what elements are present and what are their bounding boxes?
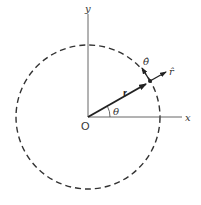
x-axis-label: x [185,112,191,123]
y-axis-label: y [84,3,91,14]
angle-arc [108,107,111,118]
r-hat-label: r̂ [169,66,175,77]
polar-coordinates-diagram: y x O r θ θ̂ r̂ [0,0,201,205]
r-hat-vector [150,72,166,81]
theta-hat-label: θ̂ [143,56,149,67]
origin-label: O [81,120,90,132]
angle-label: θ [113,106,119,117]
point-on-circle [148,79,152,83]
theta-hat-vector [142,68,150,81]
radius-label: r [123,88,127,99]
